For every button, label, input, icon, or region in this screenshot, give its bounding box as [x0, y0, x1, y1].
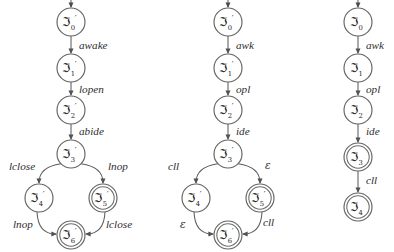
node-prime-mark: ′: [75, 145, 77, 154]
node-symbol: ℑ: [350, 14, 358, 29]
transition-state-2-to-state-3: ide: [226, 124, 250, 140]
node-state-2[interactable]: ℑ2′: [214, 96, 242, 124]
edge-line: [37, 212, 56, 234]
node-subscript: 3: [228, 156, 232, 164]
edge-line: [238, 164, 260, 183]
transition-state-1-to-state-2: opl: [226, 82, 251, 96]
node-subscript: 1: [358, 70, 362, 78]
edge-label-state-4-to-state-6: lnop: [13, 218, 33, 230]
node-subscript: 2: [71, 112, 75, 120]
node-state-0[interactable]: ℑ0: [344, 0, 372, 36]
node-symbol: ℑ: [187, 190, 195, 205]
node-subscript: 0: [228, 24, 232, 32]
transition-state-2-to-state-3: ide: [356, 124, 380, 143]
node-subscript: 5: [103, 200, 107, 208]
node-symbol: ℑ: [219, 227, 227, 242]
node-state-4[interactable]: ℑ4′: [182, 184, 210, 212]
node-prime-mark: ′: [43, 189, 45, 198]
edge-label-state-2-to-state-3: ide: [236, 125, 250, 137]
node-state-6[interactable]: ℑ6′: [214, 221, 242, 249]
edge-label-state-0-to-state-1: awk: [366, 39, 385, 51]
edge-label-state-4-to-state-6: ε: [180, 218, 186, 230]
transition-state-3-to-state-4: cll: [168, 160, 218, 184]
start-arrow-head: [69, 2, 74, 8]
edge-line: [87, 212, 106, 234]
node-state-0[interactable]: ℑ0′: [57, 0, 85, 36]
node-state-0[interactable]: ℑ0′: [214, 0, 242, 36]
transition-state-1-to-state-2: lopen: [69, 82, 105, 96]
node-symbol: ℑ: [350, 60, 358, 75]
node-symbol: ℑ: [219, 14, 227, 29]
automaton-middle: awkoplidecllεεcllℑ0′ℑ1′ℑ2′ℑ3′ℑ4′ℑ5′ℑ6′: [168, 0, 274, 249]
node-prime-mark: ′: [232, 226, 234, 235]
edge-label-state-3-to-state-4: cll: [366, 174, 377, 186]
node-symbol: ℑ: [62, 60, 70, 75]
automaton-left: awakelopenabidelcloselnoplnoplcloseℑ0′ℑ1…: [9, 0, 132, 249]
node-subscript: 0: [358, 24, 362, 32]
node-symbol: ℑ: [62, 227, 70, 242]
node-symbol: ℑ: [62, 14, 70, 29]
transition-state-4-to-state-6: lnop: [13, 212, 57, 237]
edge-label-state-0-to-state-1: awk: [236, 39, 255, 51]
node-symbol: ℑ: [350, 149, 358, 164]
node-state-1[interactable]: ℑ1: [344, 54, 372, 82]
node-subscript: 6: [71, 237, 75, 245]
node-state-3[interactable]: ℑ3′: [214, 140, 242, 168]
node-state-4[interactable]: ℑ4′: [25, 184, 53, 212]
node-subscript: 0: [71, 24, 75, 32]
node-symbol: ℑ: [251, 190, 259, 205]
edge-label-state-2-to-state-3: ide: [366, 125, 380, 137]
node-prime-mark: ′: [232, 101, 234, 110]
node-state-2[interactable]: ℑ2: [344, 96, 372, 124]
node-state-3[interactable]: ℑ3′: [57, 140, 85, 168]
edge-label-state-3-to-state-5: ε: [265, 159, 271, 171]
node-symbol: ℑ: [94, 190, 102, 205]
node-prime-mark: ′: [75, 226, 77, 235]
transition-state-0-to-state-1: awk: [226, 36, 256, 54]
transition-state-5-to-state-6: lclose: [85, 212, 132, 237]
node-state-5[interactable]: ℑ5′: [89, 184, 117, 212]
start-arrow-head: [356, 2, 361, 8]
node-symbol: ℑ: [62, 102, 70, 117]
node-prime-mark: ′: [107, 189, 109, 198]
edge-label-state-1-to-state-2: lopen: [79, 83, 104, 95]
node-subscript: 6: [228, 237, 232, 245]
edge-line: [81, 164, 103, 183]
node-symbol: ℑ: [219, 102, 227, 117]
node-subscript: 1: [71, 70, 75, 78]
node-symbol: ℑ: [350, 102, 358, 117]
node-subscript: 3: [71, 156, 75, 164]
automaton-right: awkoplidecllℑ0ℑ1ℑ2ℑ3ℑ4: [344, 0, 385, 221]
edge-label-state-5-to-state-6: lclose: [106, 218, 132, 230]
transition-state-3-to-state-5: ε: [238, 159, 271, 184]
edge-label-state-5-to-state-6: cll: [263, 216, 274, 228]
node-state-1[interactable]: ℑ1′: [214, 54, 242, 82]
node-state-6[interactable]: ℑ6′: [57, 221, 85, 249]
node-state-5[interactable]: ℑ5′: [246, 184, 274, 212]
node-prime-mark: ′: [75, 13, 77, 22]
node-state-4[interactable]: ℑ4: [344, 193, 372, 221]
edge-label-state-1-to-state-2: opl: [236, 83, 250, 95]
node-prime-mark: ′: [232, 145, 234, 154]
edge-line: [194, 212, 213, 234]
edge-line: [39, 164, 61, 183]
node-subscript: 4: [196, 200, 200, 208]
node-symbol: ℑ: [219, 60, 227, 75]
node-prime-mark: ′: [264, 189, 266, 198]
edge-line: [244, 212, 263, 234]
edge-label-state-3-to-state-4: lclose: [9, 160, 35, 172]
node-state-1[interactable]: ℑ1′: [57, 54, 85, 82]
edge-label-state-3-to-state-4: cll: [168, 160, 179, 172]
edge-line: [196, 164, 218, 183]
node-state-3[interactable]: ℑ3: [344, 143, 372, 171]
node-state-2[interactable]: ℑ2′: [57, 96, 85, 124]
transition-state-0-to-state-1: awk: [356, 36, 386, 54]
node-subscript: 2: [228, 112, 232, 120]
node-symbol: ℑ: [62, 146, 70, 161]
edge-label-state-2-to-state-3: abide: [79, 125, 104, 137]
node-symbol: ℑ: [30, 190, 38, 205]
transition-state-3-to-state-4: lclose: [9, 160, 61, 184]
transition-state-1-to-state-2: opl: [356, 82, 381, 96]
node-prime-mark: ′: [232, 59, 234, 68]
figure-container: awakelopenabidelcloselnoplnoplcloseℑ0′ℑ1…: [0, 0, 394, 252]
